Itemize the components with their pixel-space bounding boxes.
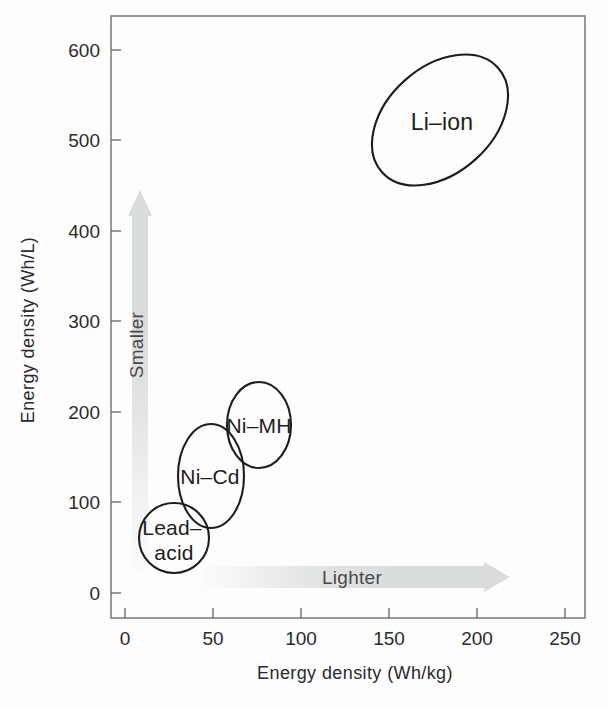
y-tick-label-600: 600	[68, 40, 100, 61]
y-tick-label-300: 300	[68, 311, 100, 332]
y-axis-ticks	[111, 50, 121, 593]
y-tick-label-100: 100	[68, 492, 100, 513]
x-tick-label-100: 100	[285, 628, 317, 649]
x-axis-ticks	[125, 608, 565, 618]
bubble-lead-acid[interactable]: Lead– acid	[139, 503, 209, 573]
y-tick-label-400: 400	[68, 221, 100, 242]
lead-acid-label-line2: acid	[154, 541, 193, 564]
bubble-ni-cd[interactable]: Ni–Cd	[178, 424, 244, 528]
x-tick-label-250: 250	[549, 628, 581, 649]
chart-page: 0 50 100 150 200 250 0 100 200 300 400 5…	[0, 0, 609, 706]
bubble-li-ion[interactable]: Li–ion	[347, 28, 534, 211]
lighter-arrow: Lighter	[202, 562, 510, 592]
bubble-ni-mh[interactable]: Ni–MH	[226, 382, 291, 468]
x-tick-label-50: 50	[202, 628, 223, 649]
x-tick-label-150: 150	[373, 628, 405, 649]
y-tick-label-500: 500	[68, 130, 100, 151]
ni-cd-label: Ni–Cd	[180, 465, 239, 488]
x-axis-tick-labels: 0 50 100 150 200 250	[120, 628, 581, 649]
x-tick-label-0: 0	[120, 628, 131, 649]
y-axis-tick-labels: 0 100 200 300 400 500 600	[68, 40, 100, 604]
x-tick-label-200: 200	[461, 628, 493, 649]
y-tick-label-0: 0	[89, 583, 100, 604]
ni-mh-label: Ni–MH	[226, 414, 291, 437]
smaller-arrow-label: Smaller	[126, 311, 147, 378]
y-tick-label-200: 200	[68, 402, 100, 423]
y-axis-title: Energy density (Wh/L)	[18, 237, 38, 423]
lighter-arrow-label: Lighter	[322, 567, 383, 588]
x-axis-title: Energy density (Wh/kg)	[257, 663, 453, 683]
energy-density-scatter-chart: 0 50 100 150 200 250 0 100 200 300 400 5…	[0, 0, 609, 706]
li-ion-label: Li–ion	[411, 109, 474, 135]
